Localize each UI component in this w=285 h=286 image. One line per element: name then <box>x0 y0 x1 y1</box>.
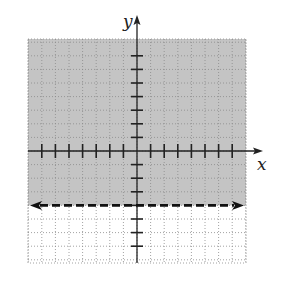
y-axis-label: y <box>122 11 133 31</box>
x-axis-label: x <box>257 154 267 174</box>
coordinate-plane: xy <box>0 0 285 286</box>
